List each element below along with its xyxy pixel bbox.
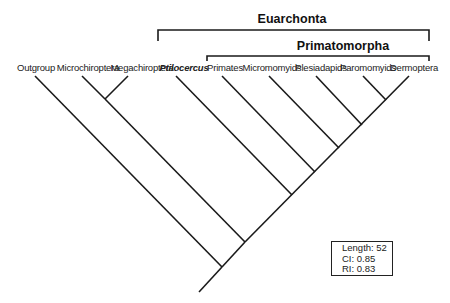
taxon-paromomyids: Paromomyids: [340, 62, 396, 73]
branch-ingroup: [222, 242, 245, 267]
root-branch: [199, 267, 222, 292]
taxon-primates: Primates: [207, 62, 243, 73]
taxon-plesiadapids: Plesiadapids: [295, 62, 346, 73]
branch-primates: [222, 76, 315, 172]
clade-label-euarchonta: Euarchonta: [258, 12, 327, 26]
clade-label-primatomorpha: Primatomorpha: [297, 39, 389, 53]
retention-index: RI: 0.83: [342, 264, 392, 275]
taxon-ptilocercus: Ptilocercus: [159, 62, 208, 73]
taxon-dermoptera: Dermoptera: [390, 62, 438, 73]
branch-microchiroptera: [82, 76, 105, 99]
branch-megachiroptera: [105, 76, 128, 99]
branch-outgroup: [35, 76, 222, 267]
tree-length: Length: 52: [342, 243, 392, 254]
branch-paromomyids: [363, 76, 386, 100]
taxon-outgroup: Outgroup: [17, 62, 55, 73]
tree-statistics-box: Length: 52 CI: 0.85 RI: 0.83: [331, 241, 393, 276]
primatomorpha-bracket: [207, 56, 429, 61]
branch-chiroptera: [105, 99, 245, 242]
branch-spine: [245, 76, 409, 242]
branch-ptilocercus: [176, 76, 292, 195]
taxon-micromomyids: Micromomyids: [243, 62, 302, 73]
branch-micromomyids: [269, 76, 339, 148]
branch-plesiadapids: [316, 76, 362, 125]
